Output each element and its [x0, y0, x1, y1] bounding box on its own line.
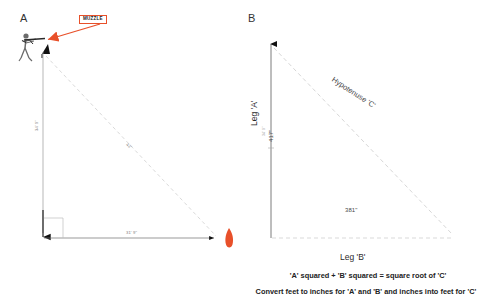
dimension-b-leg-a: 417" — [268, 129, 274, 142]
triangle-b-hypotenuse — [274, 48, 452, 234]
formula-line-2: Convert feet to inches for 'A' and 'B' a… — [244, 287, 488, 296]
dimension-a-vertical: 34' 9" — [34, 120, 39, 131]
dimension-a-horizontal: 31' 9" — [126, 230, 137, 235]
panel-label-a: A — [20, 12, 28, 24]
dimension-b-leg-a-feet: 34' 9" — [262, 126, 266, 136]
panel-label-b: B — [248, 12, 256, 24]
diagram-canvas: A B MUZZLE 34' 9" 42' 31' 9" 417" 34' 9"… — [0, 0, 488, 305]
formula-line-1: 'A' squared + 'B' squared = square root … — [254, 271, 482, 280]
shooter-icon — [19, 33, 45, 61]
leg-b-axis-label: Leg 'B' — [340, 252, 365, 262]
dimension-b-leg-b: 381" — [345, 207, 358, 213]
right-angle-marker-a — [44, 218, 63, 238]
leg-a-axis-label: Leg 'A' — [249, 101, 259, 126]
muzzle-callout-label: MUZZLE — [79, 15, 107, 24]
vector-drawing-layer — [0, 0, 488, 305]
muzzle-leader-arrow — [48, 24, 100, 40]
target-marker-icon — [225, 228, 233, 248]
